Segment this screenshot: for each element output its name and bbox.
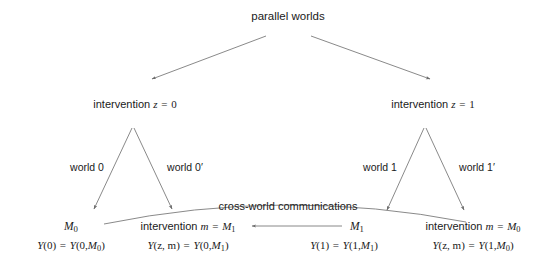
node-intervention-z0-value: 0 (171, 98, 177, 110)
formula-outcome-2-rhs-close: ) (374, 239, 378, 251)
diagram-title: parallel worlds (251, 10, 325, 23)
formula-outcome-2-eq: = (329, 239, 343, 251)
edge-label-world-0-prime: world 0′ (167, 162, 203, 174)
edge-label-cross-world-communications: cross-world communications (219, 200, 358, 212)
node-intervention-z0-prefix: intervention (93, 98, 153, 110)
formula-outcome-0-rhs-close: ) (101, 239, 105, 251)
node-intervention-z0: intervention z = 0 (93, 98, 176, 110)
formula-outcome-3-rhs-close: ) (510, 239, 514, 251)
formula-outcome-0-rhs-sym: M (88, 239, 97, 251)
node-outcome-0-symbol: M0 (64, 220, 78, 235)
node-outcome-2-sub: 1 (360, 224, 364, 234)
node-intervention-z1: intervention z = 1 (391, 98, 474, 110)
edge-label-world-1-prime: world 1′ (459, 162, 495, 174)
formula-outcome-0-eq: = (56, 239, 70, 251)
formula-outcome-0-rhs-open: (0, (76, 239, 88, 251)
node-outcome-3-prefix: intervention (426, 220, 486, 232)
formula-outcome-1-lhs-args: (z, m) (154, 239, 180, 251)
formula-outcome-2-rhs-sym: M (361, 239, 370, 251)
node-outcome-3-intervention: intervention m = M0 (426, 220, 521, 234)
formula-outcome-1: Y(z, m) = Y(0,M1) (147, 239, 228, 253)
formula-outcome-0: Y(0) = Y(0,M0) (37, 239, 105, 253)
node-outcome-3-sub: 0 (516, 225, 520, 234)
node-outcome-1-prefix: intervention (141, 220, 201, 232)
formula-outcome-1-rhs-open: (0, (200, 239, 212, 251)
node-outcome-0-main: M (64, 220, 74, 232)
node-intervention-z1-value: 1 (469, 98, 475, 110)
edge-parallel-to-z1 (311, 36, 430, 79)
node-outcome-1-main: M (222, 220, 231, 232)
edge-label-world-0: world 0 (70, 162, 104, 174)
node-outcome-3-main: M (507, 220, 516, 232)
node-intervention-z0-eq: = (158, 98, 172, 110)
edge-label-world-1: world 1 (363, 162, 397, 174)
node-outcome-1-sub: 1 (231, 225, 235, 234)
node-outcome-2-symbol: M1 (350, 220, 364, 235)
formula-outcome-1-eq: = (180, 239, 194, 251)
parallel-worlds-diagram: parallel worlds intervention z = 0 inter… (0, 0, 548, 265)
formula-outcome-1-rhs-sym: M (212, 239, 221, 251)
formula-outcome-3-lhs-args: (z, m) (439, 239, 465, 251)
formula-outcome-3: Y(z, m) = Y(1,M0) (432, 239, 513, 253)
formula-outcome-2-rhs-open: (1, (349, 239, 361, 251)
formula-outcome-0-lhs-args: (0) (43, 239, 56, 251)
node-outcome-3-var: m (485, 220, 493, 232)
node-outcome-2-main: M (350, 220, 360, 232)
node-outcome-3-eq: = (493, 220, 507, 232)
node-outcome-0-sub: 0 (74, 224, 78, 234)
formula-outcome-3-rhs-sym: M (497, 239, 506, 251)
formula-outcome-2-lhs-args: (1) (316, 239, 329, 251)
formula-outcome-1-rhs-close: ) (225, 239, 229, 251)
node-intervention-z1-eq: = (456, 98, 470, 110)
formula-outcome-3-rhs-open: (1, (485, 239, 497, 251)
node-outcome-1-eq: = (208, 220, 222, 232)
edge-parallel-to-z0 (152, 36, 266, 79)
node-outcome-1-var: m (200, 220, 208, 232)
node-intervention-z1-prefix: intervention (391, 98, 451, 110)
formula-outcome-2: Y(1) = Y(1,M1) (310, 239, 378, 253)
node-outcome-1-intervention: intervention m = M1 (141, 220, 236, 234)
formula-outcome-3-eq: = (465, 239, 479, 251)
